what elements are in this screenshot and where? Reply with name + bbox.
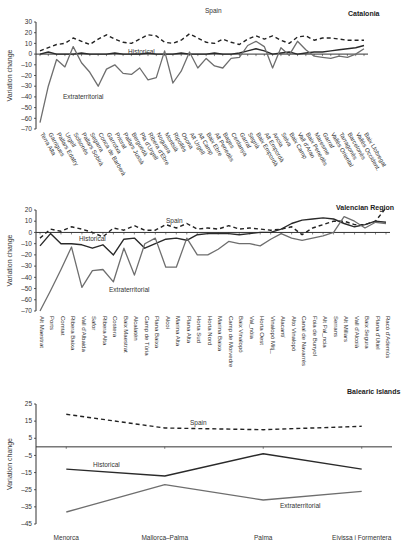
x-category-label: Ribera Alta	[102, 316, 108, 346]
x-category-label: Camp de Morvedre	[228, 316, 234, 368]
x-category-label: Plana d'Utiel	[375, 316, 381, 350]
chart-title: Catalonia	[348, 10, 380, 17]
y-axis-label: Variation change	[6, 49, 14, 101]
x-category-label: Val_nòia	[249, 316, 255, 340]
series-label: Historical	[128, 48, 155, 55]
x-category-label: Horta Nord	[207, 316, 213, 345]
y-tick-label: 5	[28, 434, 32, 441]
x-category-label: Plana Alta	[186, 316, 192, 344]
x-category-label: Alcalatén	[133, 316, 139, 341]
y-tick-label: –30	[21, 82, 32, 89]
chart-title: Balearic Islands	[347, 388, 400, 395]
x-category-label: Canal de Navarrés	[301, 316, 307, 366]
y-tick-label: –25	[21, 486, 32, 493]
x-category-label: Alcoi	[165, 316, 171, 329]
x-category-label: Marina Alta	[175, 316, 181, 347]
x-category-label: Mallorca–Palma	[141, 534, 188, 541]
series-label: Extraterritorial	[63, 93, 104, 100]
x-category-label: Menorca	[54, 534, 80, 541]
x-category-label: Palma	[254, 534, 273, 541]
y-tick-label: –35	[21, 503, 32, 510]
y-tick-label: –40	[21, 274, 32, 281]
chart-balearic-islands: Balearic Islands25155–5–15–25–35–45Varia…	[0, 384, 410, 542]
x-category-label: Vall d'Albaida	[81, 316, 87, 352]
y-tick-label: –10	[21, 61, 32, 68]
x-category-label: Marina Baixa	[217, 316, 223, 352]
y-tick-label: –60	[21, 115, 32, 122]
y-tick-label: –20	[21, 72, 32, 79]
x-category-label: Baix Maestrat	[123, 316, 129, 353]
y-tick-label: –45	[21, 520, 32, 527]
series-label: Spain	[190, 419, 207, 427]
y-tick-label: 15	[25, 417, 33, 424]
series-line-extraterritorial	[40, 217, 386, 311]
y-tick-label: 10	[25, 217, 33, 224]
x-category-label: Plana Baixa	[154, 316, 160, 349]
y-tick-label: 0	[28, 229, 32, 236]
series-label: Extraterritorial	[280, 502, 321, 509]
y-tick-label: –15	[21, 469, 32, 476]
catalonia-plot: Catalonia3020100–10–20–30–40–50–60–70Var…	[0, 0, 410, 200]
x-category-label: Baix Segura	[364, 316, 370, 349]
balearic-plot: Balearic Islands25155–5–15–25–35–45Varia…	[0, 384, 410, 542]
chart-catalonia: Catalonia3020100–10–20–30–40–50–60–70Var…	[0, 0, 410, 200]
x-category-label: Horta Sud	[196, 316, 202, 343]
y-axis-label: Variation change	[6, 438, 14, 490]
x-category-label: Alt Maestrat	[39, 316, 45, 348]
x-category-label: Vall d'Alcoià	[354, 316, 360, 349]
y-tick-label: –50	[21, 285, 32, 292]
x-category-label: Serrans	[333, 316, 339, 337]
x-category-label: Alt Millars	[343, 316, 349, 342]
x-category-label: Alto Vinalopó	[291, 316, 297, 352]
chart-title: Valencian Region	[336, 204, 394, 212]
series-line-historical	[40, 46, 364, 55]
valencian-plot: Valencian Region20100–10–20–30–40–50–60–…	[0, 196, 410, 386]
series-line-spain	[40, 34, 364, 51]
x-category-label: Horta Oest	[259, 316, 265, 345]
x-category-label: Eivissa i Formentera	[332, 534, 392, 541]
x-category-label: Racó d'Ademús	[385, 316, 391, 358]
x-category-label: Alacantí	[280, 316, 286, 338]
y-tick-label: 10	[25, 40, 33, 47]
series-label: Spain	[166, 217, 183, 225]
y-tick-label: –50	[21, 104, 32, 111]
series-label: Extraterritorial	[109, 286, 150, 293]
y-tick-label: –20	[21, 251, 32, 258]
y-tick-label: –10	[21, 240, 32, 247]
x-category-label: Camp de Túria	[144, 316, 150, 356]
x-category-label: Costera	[112, 316, 118, 338]
series-label: Spain	[205, 7, 222, 15]
series-line-spain	[66, 414, 361, 429]
chart-valencian-region: Valencian Region20100–10–20–30–40–50–60–…	[0, 196, 410, 386]
x-category-label: Alt Pal_ncia	[322, 316, 328, 348]
x-category-label: Baix Vinalopó	[238, 316, 244, 353]
y-tick-label: 0	[28, 50, 32, 57]
y-tick-label: –70	[21, 125, 32, 132]
x-category-label: Comtat	[60, 316, 66, 336]
y-tick-label: –30	[21, 262, 32, 269]
series-label: Historical	[79, 235, 106, 242]
x-category-label: Vinalopó Mitj_	[270, 316, 276, 354]
y-tick-label: –60	[21, 296, 32, 303]
y-tick-label: –5	[25, 452, 33, 459]
y-tick-label: –40	[21, 93, 32, 100]
y-tick-label: 30	[25, 18, 33, 25]
y-tick-label: –70	[21, 307, 32, 314]
y-tick-label: 25	[25, 400, 33, 407]
series-label: Historical	[93, 461, 120, 468]
x-category-label: Ports	[49, 316, 55, 330]
y-tick-label: 20	[25, 29, 33, 36]
x-category-label: Ribera Baixa	[70, 316, 76, 351]
y-axis-label: Variation change	[6, 234, 14, 286]
x-category-label: Foia de Bunyol	[312, 316, 318, 356]
x-category-label: Safor	[91, 316, 97, 330]
y-tick-label: 20	[25, 206, 33, 213]
